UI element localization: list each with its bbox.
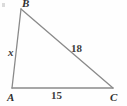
side-label-ac: 15 — [51, 90, 62, 101]
side-label-ab: x — [8, 47, 14, 58]
triangle-figure: B A C x 18 15 — [0, 0, 127, 106]
vertex-label-a: A — [7, 92, 14, 103]
side-bc-line — [21, 9, 113, 88]
vertex-label-c: C — [110, 92, 117, 103]
side-label-bc: 18 — [71, 43, 82, 54]
triangle-shape — [0, 0, 127, 106]
vertex-label-b: B — [22, 0, 29, 9]
